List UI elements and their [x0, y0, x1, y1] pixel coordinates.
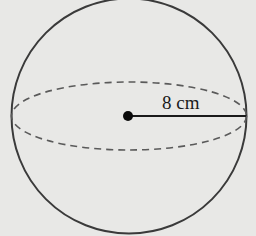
sphere-diagram: 8 cm: [0, 0, 256, 236]
sphere-svg: 8 cm: [0, 0, 256, 236]
radius-label: 8 cm: [162, 92, 200, 113]
center-point: [123, 111, 133, 121]
